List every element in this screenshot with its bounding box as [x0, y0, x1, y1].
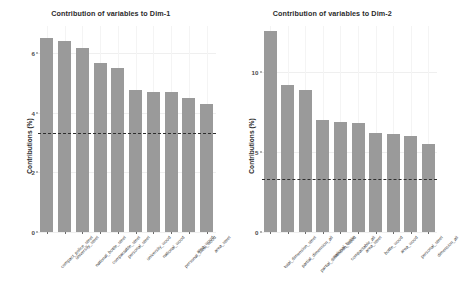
bar — [94, 63, 107, 232]
panel-dim1: Contribution of variables to Dim-1 Contr… — [0, 0, 222, 291]
y-tick-label: 5 — [255, 149, 258, 156]
bar — [352, 123, 365, 232]
panel-title-dim2: Contribution of variables to Dim-2 — [222, 9, 444, 18]
x-tick — [47, 232, 48, 234]
bar — [316, 120, 329, 232]
bar-cell — [180, 26, 198, 232]
x-tick — [65, 232, 66, 234]
bar-cell — [162, 26, 180, 232]
bar — [299, 90, 312, 232]
x-tick-label: bottle_wood — [383, 235, 404, 256]
bar-series-dim1 — [38, 26, 216, 232]
x-tick-label: area_wood — [195, 235, 214, 254]
x-axis-labels-dim2: total_dimension_steelpartial_dimension_a… — [262, 232, 438, 291]
reference-line-dim1 — [38, 133, 216, 134]
bar-cell — [297, 26, 315, 232]
bar-cell — [349, 26, 367, 232]
bar-cell — [384, 26, 402, 232]
plot-area-dim1: 0246 — [38, 26, 216, 232]
x-tick — [288, 232, 289, 234]
bar — [111, 68, 124, 232]
bar — [182, 98, 195, 232]
bar-series-dim2 — [262, 26, 438, 232]
bar-cell — [279, 26, 297, 232]
y-tick-label: 6 — [32, 49, 35, 56]
bar — [281, 85, 294, 232]
reference-line-dim2 — [262, 179, 438, 180]
bar-cell — [145, 26, 163, 232]
bar — [387, 134, 400, 232]
bar-cell — [74, 26, 92, 232]
bar-cell — [198, 26, 216, 232]
bar — [76, 48, 89, 232]
x-tick — [376, 232, 377, 234]
bar — [369, 133, 382, 232]
bar — [147, 92, 160, 232]
x-tick — [340, 232, 341, 234]
x-tick — [136, 232, 137, 234]
bar-cell — [127, 26, 145, 232]
bar — [264, 31, 277, 232]
bar-cell — [262, 26, 280, 232]
plot-area-dim2: 0510 — [262, 26, 438, 232]
bar-cell — [38, 26, 56, 232]
x-tick — [270, 232, 271, 234]
bar-cell — [56, 26, 74, 232]
x-tick-label: compact_police_steel — [60, 235, 94, 269]
bar-cell — [367, 26, 385, 232]
x-tick — [305, 232, 306, 234]
panel-title-dim1: Contribution of variables to Dim-1 — [0, 9, 222, 18]
y-tick-label: 0 — [255, 229, 258, 236]
bar-cell — [91, 26, 109, 232]
x-tick — [82, 232, 83, 234]
bar — [129, 90, 142, 232]
x-tick — [358, 232, 359, 234]
x-tick — [189, 232, 190, 234]
x-axis-labels-dim1: compact_police_steeluniversity_steelnati… — [38, 232, 216, 291]
y-tick-label: 2 — [32, 169, 35, 176]
x-tick — [393, 232, 394, 234]
x-tick — [171, 232, 172, 234]
bar — [334, 122, 347, 232]
x-tick — [207, 232, 208, 234]
y-axis-label-dim2: Contributions (%) — [248, 118, 255, 173]
x-tick — [323, 232, 324, 234]
panel-dim2: Contribution of variables to Dim-2 Contr… — [222, 0, 444, 291]
bar-cell — [109, 26, 127, 232]
bar — [165, 92, 178, 232]
bar — [40, 38, 53, 232]
bar — [422, 144, 435, 232]
x-tick — [411, 232, 412, 234]
bar-cell — [332, 26, 350, 232]
bar — [200, 104, 213, 232]
bar-cell — [402, 26, 420, 232]
y-tick-label: 10 — [252, 69, 259, 76]
x-tick — [100, 232, 101, 234]
bar — [404, 136, 417, 232]
y-tick-label: 0 — [32, 229, 35, 236]
x-tick — [118, 232, 119, 234]
x-tick — [428, 232, 429, 234]
bar-cell — [314, 26, 332, 232]
bar-cell — [419, 26, 437, 232]
y-axis-label-dim1: Contributions (%) — [26, 118, 33, 173]
bar — [58, 41, 71, 232]
y-tick-label: 4 — [32, 109, 35, 116]
x-tick — [153, 232, 154, 234]
